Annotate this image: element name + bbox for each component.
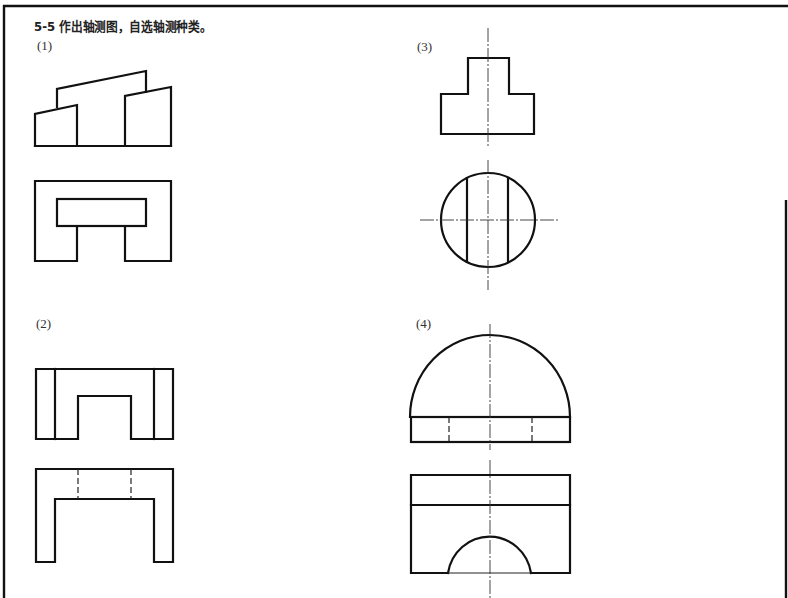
drawing-canvas: [0, 0, 788, 598]
problem-4-top-view: [411, 460, 570, 598]
page-border: [3, 5, 788, 598]
problem-1-top-view: [35, 181, 171, 261]
problem-2-front-view: [36, 369, 173, 439]
problem-1-front-view: [35, 71, 171, 146]
problem-2-top-view: [36, 469, 173, 562]
problem-3-top-view: [420, 160, 560, 290]
problem-3-front-view: [441, 28, 534, 148]
problem-4-front-view: [410, 324, 570, 450]
worksheet-page: 5-5 作出轴测图，自选轴测种类。 (1) (3) (2) (4): [0, 0, 788, 598]
